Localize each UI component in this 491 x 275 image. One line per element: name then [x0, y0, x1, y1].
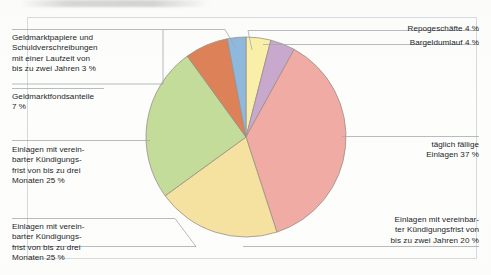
label-drei-monaten-oben: Einlagen mit verein- barter Kündigungs- … — [12, 145, 140, 187]
pie-slices — [146, 37, 346, 237]
label-zwei-jahren: Einlagen mit vereinbar- ter Kündigungsfr… — [319, 215, 479, 246]
label-geldmarktpapiere: Geldmarktpapiere und Schuldverschreibung… — [12, 33, 152, 75]
label-bargeldumlauf: Bargeldumlauf 4 % — [299, 38, 479, 48]
label-geldmarktfondsanteile: Geldmarktfondsanteile 7 % — [12, 92, 142, 113]
scan-edge-artifact — [20, 0, 210, 7]
pie-chart-figure: Geldmarktpapiere und Schuldverschreibung… — [0, 0, 491, 275]
pie-svg — [143, 34, 349, 240]
label-taeglich-faellige: täglich fällige Einlagen 37 % — [329, 140, 479, 161]
label-drei-monaten-unten: Einlagen mit verein- barter Kündigungs- … — [12, 222, 140, 264]
label-repogeschaefte: Repogeschäfte 4 % — [299, 24, 479, 34]
pie-chart — [143, 34, 349, 240]
